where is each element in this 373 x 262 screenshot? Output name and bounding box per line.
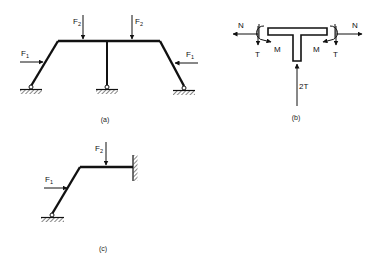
caption-a: (a) [101,116,110,124]
caption-c: (c) [99,245,107,253]
m-left-label: M [274,45,281,54]
figure-c: F2 F1 (c) [41,142,138,253]
n-left-label: N [238,21,244,30]
pin-support [41,213,64,222]
f2-left-label: F2 [73,17,81,27]
figure-b: N N T T M M 2T (b) [233,21,362,122]
inclined-leg [52,167,80,214]
figure-a: F2 F2 F1 F1 (a) [20,15,198,124]
pin-support-right [173,86,195,95]
left-leg [31,41,58,86]
m-right-label: M [313,45,320,54]
two-t-label: 2T [299,82,308,91]
f1-right-label: F1 [186,50,194,60]
f1-left-label: F1 [21,49,29,59]
caption-b: (b) [292,114,301,122]
t-right-label: T [333,50,338,59]
f2-right-label: F2 [135,17,143,27]
fixed-wall-support [133,155,138,181]
pin-support-left [20,85,42,94]
t-left-label: T [255,50,260,59]
pin-support-middle [96,85,118,94]
n-right-label: N [352,21,358,30]
structural-diagram: F2 F2 F1 F1 (a) N N T T M M 2T (b) [0,0,373,262]
f1-label: F1 [45,175,53,185]
f2-label: F2 [95,144,103,154]
